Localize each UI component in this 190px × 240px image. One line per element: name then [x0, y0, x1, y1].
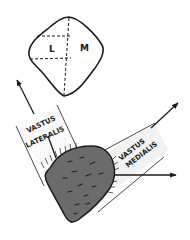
patella-force-diagram: L M VASTUS LATERALIS VASTUS MEDIALIS — [0, 0, 190, 240]
patella-inset: L M — [29, 17, 103, 96]
vastus-medialis-force-arrow-oblique — [151, 103, 178, 128]
vastus-lateralis-force-arrow — [17, 80, 34, 114]
medial-facet-label: M — [80, 43, 89, 53]
inset-divider-bottom — [30, 58, 71, 59]
inset-divider-vertical — [64, 18, 69, 95]
patella-inset-outline — [29, 17, 103, 96]
lateral-facet-label: L — [49, 44, 55, 54]
